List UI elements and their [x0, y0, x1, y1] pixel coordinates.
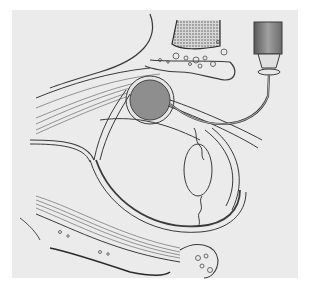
eyeball-sclera [30, 128, 246, 232]
ciliary-body [194, 128, 204, 226]
needle-highlight [170, 74, 269, 124]
needle [170, 74, 269, 124]
lens [184, 144, 212, 196]
optic-nerve-round-section [126, 76, 174, 124]
orbital-fascia [94, 90, 262, 160]
eye-anatomy-illustration [0, 0, 310, 288]
lower-eye-muscle [36, 196, 180, 262]
syringe [254, 22, 282, 75]
